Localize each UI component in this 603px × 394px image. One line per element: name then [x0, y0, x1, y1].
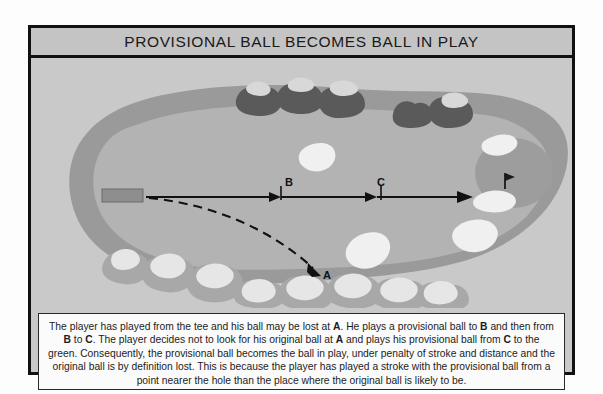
- marker-a-label: A: [323, 269, 331, 281]
- caption-panel: The player has played from the tee and h…: [38, 313, 565, 390]
- marker-b-label: B: [285, 176, 293, 188]
- screenshot-root: PROVISIONAL BALL BECOMES BALL IN PLAY: [0, 0, 603, 394]
- caption-seg-1: The player has played from the tee and h…: [49, 321, 333, 332]
- caption-seg-5: . The player decides not to look for his…: [93, 334, 336, 345]
- marker-c-label: C: [377, 176, 385, 188]
- caption-seg-3: and then from: [488, 321, 554, 332]
- marker-a: A: [323, 269, 331, 281]
- caption-seg-2: . He plays a provisional ball to: [340, 321, 480, 332]
- caption-mark-c2: C: [503, 334, 510, 345]
- caption-text: The player has played from the tee and h…: [48, 320, 555, 387]
- tee-box: [102, 189, 143, 202]
- caption-seg-6: and plays his provisional ball from: [343, 334, 503, 345]
- page-title: PROVISIONAL BALL BECOMES BALL IN PLAY: [124, 33, 478, 51]
- diagram-frame: PROVISIONAL BALL BECOMES BALL IN PLAY: [28, 25, 575, 375]
- caption-mark-b1: B: [480, 321, 487, 332]
- title-bar: PROVISIONAL BALL BECOMES BALL IN PLAY: [31, 28, 572, 58]
- caption-seg-4: to: [71, 334, 85, 345]
- caption-mark-b2: B: [63, 334, 70, 345]
- caption-mark-c1: C: [85, 334, 92, 345]
- golf-hole-illustration: B C A: [31, 58, 572, 308]
